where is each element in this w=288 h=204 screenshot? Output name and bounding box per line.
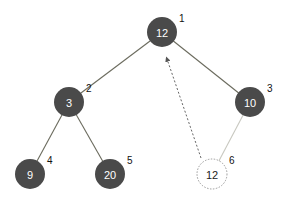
node-index: 6 [229,155,235,166]
heap-node-3: 103 [235,83,273,118]
node-index: 3 [267,83,273,94]
node-value: 3 [66,97,72,109]
node-value: 12 [156,27,168,39]
heap-node-4: 94 [15,155,53,190]
node-index: 5 [127,155,133,166]
edge-n1-n2 [69,32,162,102]
edge-n1-n3 [162,32,250,102]
node-value: 9 [27,169,33,181]
arrows-layer [167,59,201,158]
heap-node-6: 126 [197,155,235,190]
node-value: 10 [244,97,256,109]
nodes-layer: 1213210394205126 [15,13,273,190]
node-index: 2 [86,83,92,94]
heap-diagram: 1213210394205126 [0,0,288,204]
heap-node-5: 205 [95,155,133,190]
node-value: 20 [104,169,116,181]
node-index: 4 [47,155,53,166]
sift-up-arrow [167,59,201,158]
heap-node-1: 121 [147,13,185,48]
node-index: 1 [179,13,185,24]
node-value: 12 [206,169,218,181]
heap-node-2: 32 [54,83,92,118]
